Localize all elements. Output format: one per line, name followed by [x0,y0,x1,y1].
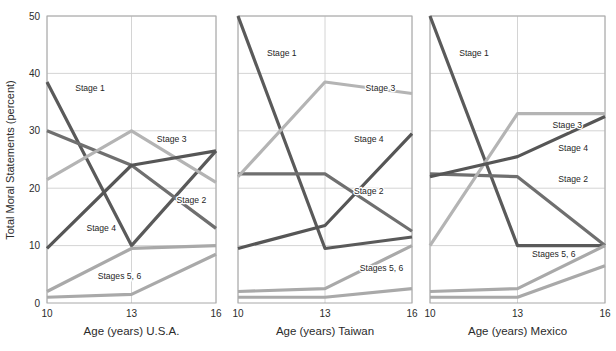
y-tick-label: 0 [34,298,40,309]
x-tick-label: 13 [126,308,138,319]
x-tick-label: 16 [599,308,611,319]
panel-container: Stage 1Stage 1Stage 2Stage 2Stage 3Stage… [29,11,611,338]
series-annotation-label: Stage 4 [86,223,116,233]
x-axis-title: Age (years) Taiwan [276,325,374,337]
series-annotation-label: Stages 5, 6 [98,271,142,281]
moral-statements-line-chart-figure: Total Moral Statements (percent) Stage 1… [0,0,616,351]
series-annotation-label: Stage 2 [558,174,588,184]
series-annotation-label: Stage 4 [558,143,588,153]
x-tick-label: 10 [232,308,244,319]
series-annotation-label: Stages 5, 6 [532,249,576,259]
y-axis-title: Total Moral Statements (percent) [4,80,16,240]
chart-panel-2: Stage 1Stage 1Stage 2Stage 2Stage 3Stage… [232,16,418,337]
chart-panel-1: Stage 1Stage 1Stage 2Stage 2Stage 3Stage… [29,11,222,338]
x-tick-label: 16 [406,308,418,319]
series-annotation-label: Stage 3 [157,134,187,144]
x-tick-label: 13 [319,308,331,319]
x-axis-title: Age (years) U.S.A. [84,325,180,337]
series-annotation-label: Stages 5, 6 [360,263,404,273]
series-annotation-label: Stage 1 [267,48,297,58]
series-annotation-label: Stage 2 [177,195,207,205]
chart-panel-3: Stage 1Stage 1Stage 2Stage 2Stage 3Stage… [424,16,611,337]
y-tick-label: 10 [29,240,41,251]
series-annotation-label: Stage 1 [75,83,105,93]
series-annotation-label: Stage 4 [354,134,384,144]
series-annotation-label: Stage 3 [553,120,583,130]
y-tick-label: 30 [29,125,41,136]
y-tick-label: 50 [29,11,41,22]
x-axis-title: Age (years) Mexico [468,325,567,337]
x-tick-label: 16 [210,308,222,319]
series-annotation-label: Stage 1 [459,48,489,58]
x-tick-label: 10 [424,308,436,319]
series-annotation-label: Stage 2 [354,186,384,196]
x-tick-label: 13 [512,308,524,319]
y-tick-label: 40 [29,68,41,79]
y-tick-label: 20 [29,183,41,194]
x-tick-label: 10 [41,308,53,319]
series-annotation-label: Stage 3 [366,83,396,93]
